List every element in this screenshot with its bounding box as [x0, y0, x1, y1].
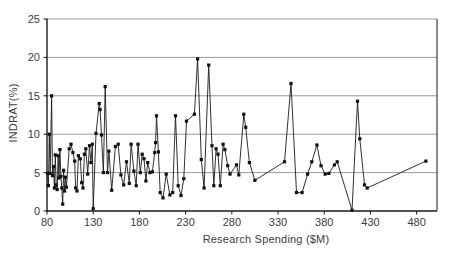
plot-svg: 801301802302803303804304800510152025 [0, 0, 454, 259]
data-point [301, 191, 304, 194]
data-point [77, 154, 80, 157]
data-point [65, 186, 68, 189]
data-point [223, 148, 226, 151]
x-tick-label: 380 [315, 216, 333, 228]
data-point [200, 158, 203, 161]
y-tick-label: 20 [28, 51, 40, 63]
data-point [212, 184, 215, 187]
data-point [228, 173, 231, 176]
data-point [315, 143, 318, 146]
x-tick-label: 480 [407, 216, 425, 228]
data-point [157, 150, 160, 153]
data-point [92, 207, 95, 210]
data-point [98, 102, 101, 105]
x-axis-title: Research Spending ($M) [95, 233, 437, 245]
data-point [141, 153, 144, 156]
data-point [306, 173, 309, 176]
x-tick-label: 180 [130, 216, 148, 228]
y-tick-label: 5 [34, 167, 40, 179]
scatter-line-chart: 801301802302803303804304800510152025 IND… [0, 0, 454, 259]
data-point [104, 85, 107, 88]
data-point [366, 186, 369, 189]
data-point [319, 164, 322, 167]
data-point [117, 143, 120, 146]
data-point [88, 144, 91, 147]
data-point [50, 94, 53, 97]
data-point [80, 181, 83, 184]
data-point [424, 160, 427, 163]
data-point [203, 186, 206, 189]
data-point [207, 64, 210, 67]
data-point [114, 145, 117, 148]
data-point [159, 191, 162, 194]
data-point [125, 160, 128, 163]
data-point [289, 82, 292, 85]
data-point [165, 173, 168, 176]
data-point [83, 153, 86, 156]
data-point [107, 150, 110, 153]
y-tick-label: 0 [34, 205, 40, 217]
data-point [283, 160, 286, 163]
data-point [174, 114, 177, 117]
data-point [58, 148, 61, 151]
data-point [155, 114, 158, 117]
x-tick-label: 80 [41, 216, 53, 228]
data-point [358, 137, 361, 140]
data-point [216, 153, 219, 156]
data-point [94, 132, 97, 135]
data-point [177, 184, 180, 187]
data-point [253, 179, 256, 182]
data-point [210, 144, 213, 147]
data-point [61, 203, 64, 206]
data-point [122, 183, 125, 186]
data-point [310, 160, 313, 163]
data-point [222, 143, 225, 146]
data-point [69, 143, 72, 146]
data-point [242, 113, 245, 116]
data-point [135, 184, 138, 187]
x-tick-label: 430 [361, 216, 379, 228]
data-point [99, 108, 102, 111]
data-point [73, 160, 76, 163]
y-axis-title: INDRAT(%) [7, 53, 19, 173]
data-point [100, 133, 103, 136]
data-point [244, 126, 247, 129]
y-tick-label: 10 [28, 128, 40, 140]
data-point [350, 209, 353, 212]
data-point [171, 191, 174, 194]
data-point [324, 173, 327, 176]
x-tick-label: 130 [84, 216, 102, 228]
data-point [336, 160, 339, 163]
data-point [91, 143, 94, 146]
data-point [84, 147, 87, 150]
data-point [52, 165, 55, 168]
data-point [185, 120, 188, 123]
y-tick-label: 25 [28, 13, 40, 25]
data-point [75, 189, 78, 192]
x-tick-label: 330 [269, 216, 287, 228]
data-point [56, 188, 59, 191]
data-point [54, 153, 57, 156]
data-point [179, 194, 182, 197]
data-point [193, 113, 196, 116]
data-point [68, 147, 71, 150]
data-point [154, 141, 157, 144]
data-point [139, 171, 142, 174]
y-tick-label: 15 [28, 90, 40, 102]
data-point [136, 143, 139, 146]
data-point [219, 184, 222, 187]
data-point [142, 157, 145, 160]
data-point [356, 100, 359, 103]
data-point [59, 175, 62, 178]
data-point [333, 163, 336, 166]
data-point [79, 157, 82, 160]
data-point [71, 151, 74, 154]
data-point [215, 147, 218, 150]
data-point [106, 171, 109, 174]
data-point [53, 186, 56, 189]
x-tick-label: 230 [176, 216, 194, 228]
data-point [48, 133, 51, 136]
data-point [132, 170, 135, 173]
data-point [62, 169, 65, 172]
data-point [74, 186, 77, 189]
